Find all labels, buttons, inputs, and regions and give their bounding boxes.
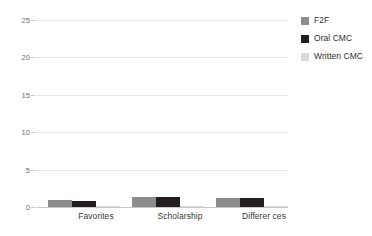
- legend-swatch-icon: [301, 35, 309, 43]
- y-tick-mark: [31, 132, 35, 133]
- gridline-0-baseline: [36, 207, 288, 208]
- y-tick-mark: [31, 95, 35, 96]
- y-tick-label-0: 0: [26, 204, 30, 212]
- bar-differences-written-cmc: [264, 206, 288, 207]
- legend-item-written-cmc: Written CMC: [301, 49, 363, 64]
- y-tick-label-20: 20: [21, 54, 30, 62]
- y-axis: 25 20 15 10 5 0: [0, 20, 30, 207]
- legend-label-f2f: F2F: [314, 16, 329, 25]
- y-tick-label-25: 25: [21, 17, 30, 25]
- legend-item-oral-cmc: Oral CMC: [301, 31, 363, 46]
- y-tick-mark: [31, 20, 35, 21]
- bar-chart: 25 20 15 10 5 0: [0, 0, 372, 236]
- legend-swatch-icon: [301, 17, 309, 25]
- legend-swatch-icon: [301, 53, 309, 61]
- bar-scholarship-oral-cmc: [156, 197, 180, 207]
- legend-label-written-cmc: Written CMC: [314, 52, 363, 61]
- bar-group-scholarship: [132, 20, 200, 207]
- bar-differences-oral-cmc: [240, 198, 264, 207]
- legend: F2F Oral CMC Written CMC: [301, 13, 363, 67]
- legend-label-oral-cmc: Oral CMC: [314, 34, 352, 43]
- y-tick-mark: [31, 170, 35, 171]
- plot-area: [36, 20, 288, 207]
- bar-favorites-written-cmc: [96, 206, 120, 208]
- bar-favorites-oral-cmc: [72, 201, 96, 207]
- bar-group-differences: [216, 20, 284, 207]
- x-tick-label-differences: Differer ces: [182, 212, 346, 221]
- y-tick-label-5: 5: [26, 167, 30, 175]
- bar-favorites-f2f: [48, 200, 72, 208]
- y-tick-label-10: 10: [21, 129, 30, 137]
- y-tick-mark: [31, 57, 35, 58]
- bar-differences-f2f: [216, 198, 240, 207]
- y-tick-label-15: 15: [21, 92, 30, 100]
- legend-item-f2f: F2F: [301, 13, 363, 28]
- bar-scholarship-f2f: [132, 197, 156, 208]
- bar-group-favorites: [48, 20, 116, 207]
- y-tick-mark: [31, 207, 35, 208]
- bar-scholarship-written-cmc: [180, 206, 204, 207]
